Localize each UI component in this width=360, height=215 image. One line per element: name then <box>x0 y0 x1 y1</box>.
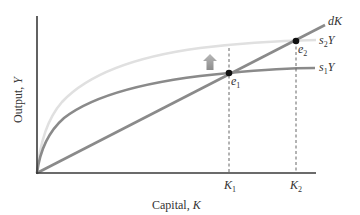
s2y-curve <box>37 40 316 173</box>
s1y-curve <box>37 68 315 173</box>
dk-label: dK <box>328 14 343 28</box>
solow-diagram: dK s2Y s1Y e1 e2 K1 K2 Capital, K Output… <box>0 0 360 215</box>
k2-tick-label: K2 <box>289 178 302 194</box>
e1-label: e1 <box>231 74 240 90</box>
s1y-label: s1Y <box>319 60 336 76</box>
x-axis-title: Capital, K <box>152 198 202 212</box>
depreciation-line <box>37 25 325 173</box>
s2y-label: s2Y <box>319 33 336 49</box>
y-axis-title: Output, Y <box>11 76 25 123</box>
k1-tick-label: K1 <box>223 178 236 194</box>
shift-up-arrow-icon <box>203 54 217 70</box>
e2-label: e2 <box>298 42 307 58</box>
